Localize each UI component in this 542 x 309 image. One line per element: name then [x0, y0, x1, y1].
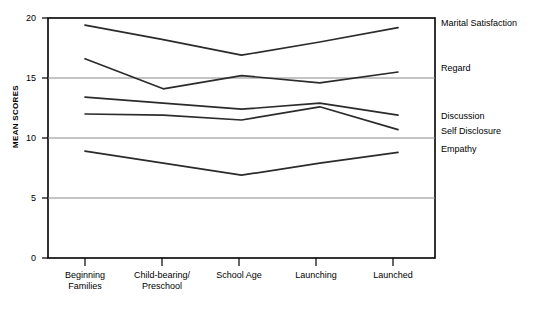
series-label-self-disclosure: Self Disclosure [441, 126, 501, 136]
x-axis-ticks [85, 258, 393, 266]
series-label-discussion: Discussion [441, 111, 485, 121]
series-label-marital-satisfaction: Marital Satisfaction [441, 18, 517, 28]
series-label-empathy: Empathy [441, 144, 477, 154]
series-line-marital-satisfaction [85, 25, 398, 55]
series-line-regard [85, 59, 398, 89]
series-label-regard: Regard [441, 63, 471, 73]
series-line-empathy [85, 151, 398, 175]
x-axis-label-launched: Launched [345, 270, 441, 281]
x-axis-label-line1: Launched [345, 270, 441, 281]
x-axis-label-line2: Preschool [114, 281, 210, 292]
gridlines [48, 78, 435, 198]
line-chart-figure: MEAN SCORES 20 15 10 5 0 [0, 0, 542, 309]
series-line-self-disclosure [85, 107, 398, 130]
plot-area [0, 0, 542, 309]
series-line-discussion [85, 97, 398, 115]
y-axis-ticks [42, 18, 48, 258]
data-series-layer [85, 25, 398, 175]
